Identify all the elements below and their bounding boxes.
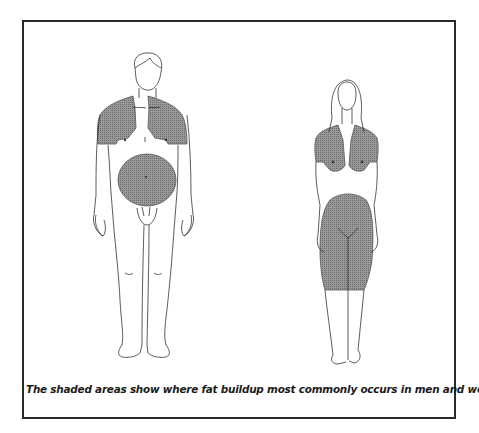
male-abdomen-fat <box>118 154 176 206</box>
figure-caption: The shaded areas show where fat buildup … <box>26 383 454 395</box>
male-figure <box>93 53 193 357</box>
male-shoulder-fat-right <box>148 96 187 144</box>
female-figure <box>315 80 378 364</box>
female-shoulder-fat-left <box>315 125 345 171</box>
female-hair <box>331 80 364 132</box>
female-hip-thigh-fat <box>320 194 373 290</box>
female-head <box>338 82 356 110</box>
male-shoulder-fat-left <box>97 96 136 144</box>
body-illustrations <box>0 0 479 433</box>
male-head <box>134 53 161 90</box>
